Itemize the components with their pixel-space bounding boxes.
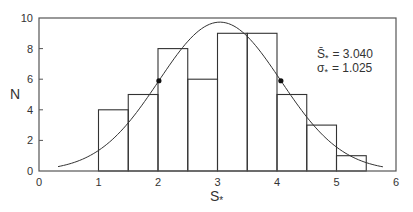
sigma-annotation: σ*= 1.025 xyxy=(317,61,373,77)
x-tick-label: 2 xyxy=(155,176,161,188)
x-axis-label: S* xyxy=(210,188,223,206)
y-tick-label: 6 xyxy=(27,73,33,85)
x-axis-label-main: S xyxy=(210,188,219,204)
histogram-bar xyxy=(99,110,129,171)
x-axis-ticks: 0123456 xyxy=(36,176,399,188)
y-tick-label: 0 xyxy=(27,165,33,177)
histogram-bar xyxy=(307,125,337,171)
y-axis-ticks: 0246810 xyxy=(21,12,43,177)
mean-value: = 3.040 xyxy=(333,47,374,61)
histogram-bar xyxy=(158,49,188,171)
x-tick-label: 3 xyxy=(214,176,220,188)
mean-subscript: * xyxy=(325,53,329,63)
histogram-bar xyxy=(218,33,248,171)
sigma-value: = 1.025 xyxy=(332,61,373,75)
x-tick-label: 0 xyxy=(36,176,42,188)
x-tick-label: 1 xyxy=(95,176,101,188)
histogram-chart: 0246810 0123456 N S* S̄*= 3.040 σ*= 1.02… xyxy=(0,0,413,212)
inflection-point xyxy=(278,78,283,83)
histogram-bar xyxy=(128,95,158,172)
normal-fit-curve xyxy=(58,22,383,167)
histogram-bar xyxy=(337,156,367,171)
inflection-point xyxy=(156,78,161,83)
x-tick-label: 5 xyxy=(333,176,339,188)
y-tick-label: 10 xyxy=(21,12,33,24)
histogram-bar xyxy=(188,79,218,171)
x-tick-label: 6 xyxy=(393,176,399,188)
histogram-bar xyxy=(277,95,307,172)
y-tick-label: 4 xyxy=(27,104,33,116)
x-tick-label: 4 xyxy=(274,176,280,188)
y-axis-label: N xyxy=(10,86,20,102)
x-axis-label-sub: * xyxy=(219,195,223,206)
sigma-subscript: * xyxy=(324,67,328,77)
inflection-points xyxy=(156,78,283,83)
y-tick-label: 2 xyxy=(27,134,33,146)
y-tick-label: 8 xyxy=(27,43,33,55)
mean-symbol: S̄ xyxy=(317,47,325,61)
